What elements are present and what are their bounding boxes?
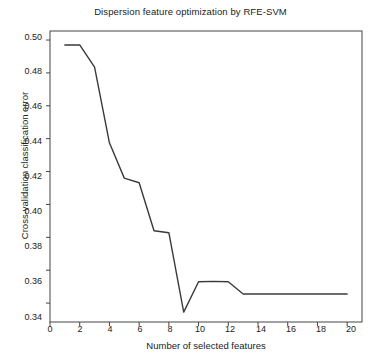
- plot-frame: [50, 31, 362, 322]
- chart-figure: Dispersion feature optimization by RFE-S…: [0, 0, 381, 361]
- plot-area: [0, 0, 381, 361]
- data-series-line: [65, 45, 347, 312]
- y-axis-ticks: [46, 40, 50, 303]
- x-axis-ticks: [50, 322, 347, 326]
